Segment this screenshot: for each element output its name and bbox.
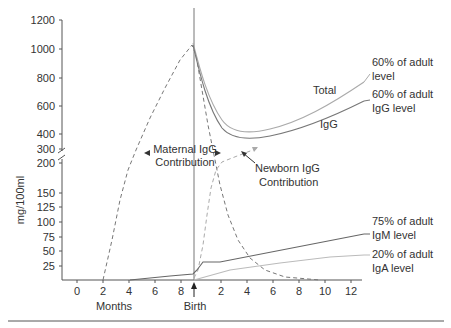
igg-end-label-2: IgG level (372, 102, 415, 114)
y-tick-label: 125 (37, 201, 55, 213)
x-tick-label: 2 (218, 285, 224, 297)
y-tick-label: 1200 (31, 14, 55, 26)
y-tick-label: 800 (37, 72, 55, 84)
x-tick-label: 6 (270, 285, 276, 297)
annotations: Total IgG 60% of adult level 60% of adul… (144, 56, 433, 274)
x-tick-label: 12 (345, 285, 357, 297)
x-tick-label: 2 (100, 285, 106, 297)
newborn-label-1: Newborn IgG (255, 162, 320, 174)
total-label: Total (313, 84, 336, 96)
igg-end-label-1: 60% of adult (372, 88, 433, 100)
birth-label: Birth (184, 300, 207, 312)
maternal-label-1: Maternal IgG (153, 143, 217, 155)
y-tick-label: 25 (43, 260, 55, 272)
iga-end-label-2: IgA level (372, 262, 414, 274)
series-igg (193, 45, 364, 138)
y-tick-label: 400 (37, 128, 55, 140)
y-tick-label: 200 (37, 157, 55, 169)
y-tick-label: 1000 (31, 43, 55, 55)
birth-arrow-icon (191, 282, 197, 289)
x-tick-label: 4 (244, 285, 250, 297)
newborn-label-2: Contribution (259, 176, 318, 188)
igm-end-label-1: 75% of adult (372, 215, 433, 227)
x-axis: 0 2 4 6 8 2 4 6 8 10 12 Months Birth (62, 280, 362, 312)
maternal-left-arrow-icon (144, 150, 150, 156)
x-tick-label: 0 (74, 285, 80, 297)
y-tick-label: 50 (43, 245, 55, 257)
igg-label: IgG (320, 118, 338, 130)
maternal-right-arrow-icon (215, 150, 221, 156)
y-tick-label: 75 (43, 231, 55, 243)
y-axis: 1200 1000 800 600 400 300 200 150 125 10… (14, 14, 65, 280)
y-tick-label: 300 (37, 143, 55, 155)
immunoglobulin-chart: 1200 1000 800 600 400 300 200 150 125 10… (0, 0, 451, 328)
x-tick-label: 8 (178, 285, 184, 297)
x-tick-label: 8 (296, 285, 302, 297)
x-tick-label: 4 (126, 285, 132, 297)
y-tick-label: 150 (37, 187, 55, 199)
maternal-label-2: Contribution (155, 156, 214, 168)
x-tick-label: 10 (319, 285, 331, 297)
y-axis-label: mg/100ml (14, 176, 26, 224)
iga-end-label-1: 20% of adult (372, 248, 433, 260)
x-tick-label: 6 (152, 285, 158, 297)
y-tick-label: 100 (37, 216, 55, 228)
y-tick-label: 600 (37, 100, 55, 112)
total-end-label-1: 60% of adult (372, 56, 433, 68)
series-iga (194, 255, 364, 280)
series-total (193, 43, 364, 132)
igm-end-label-2: IgM level (372, 229, 416, 241)
total-end-label-2: level (372, 70, 395, 82)
x-axis-label: Months (96, 300, 133, 312)
